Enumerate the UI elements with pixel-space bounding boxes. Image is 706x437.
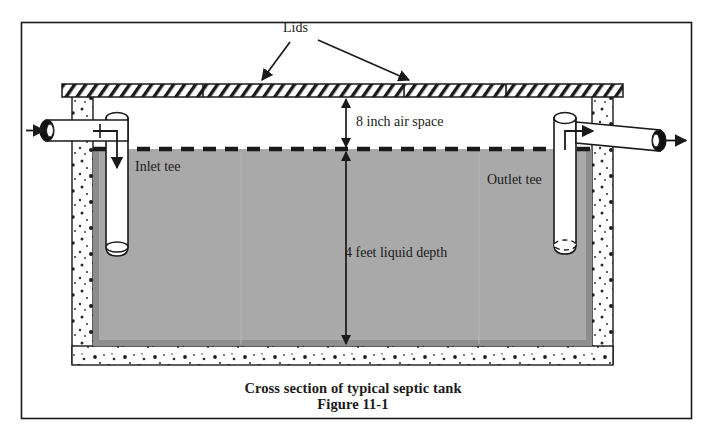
outlet-tee: [554, 113, 686, 255]
lids-leader-arrows: [262, 40, 409, 80]
label-outlet-tee: Outlet tee: [487, 172, 542, 188]
outlet-pipe: [576, 122, 660, 151]
figure-caption: Cross section of typical septic tank Fig…: [0, 380, 706, 412]
label-liquid-depth: 4 feet liquid depth: [345, 245, 447, 261]
label-air-space: 8 inch air space: [356, 114, 443, 130]
caption-title: Cross section of typical septic tank: [0, 380, 706, 396]
lids-leader-arrow-right: [318, 40, 409, 80]
tank-floor: [72, 346, 613, 365]
tank-structure: [62, 84, 623, 365]
caption-figure-number: Figure 11-1: [0, 396, 706, 412]
lids-leader-arrow-left: [262, 42, 290, 80]
label-inlet-tee: Inlet tee: [135, 159, 180, 175]
lid-slab: [62, 84, 623, 97]
septic-tank-cross-section-drawing: [0, 0, 706, 437]
septic-tank-figure: Lids 8 inch air space 4 feet liquid dept…: [0, 0, 706, 437]
label-lids: Lids: [283, 20, 308, 36]
